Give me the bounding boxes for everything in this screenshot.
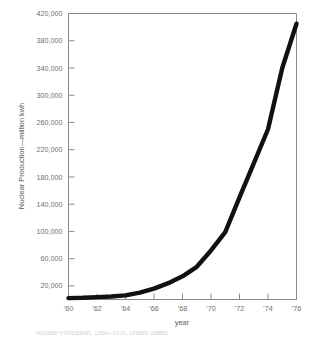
y-tick-label: 100,000 bbox=[37, 227, 63, 236]
x-tick-label: '74 bbox=[263, 304, 272, 313]
y-tick-label: 220,000 bbox=[37, 145, 63, 154]
bottom-caption-strip: Nuclear Production, 1960–1976, United St… bbox=[0, 331, 312, 338]
chart-canvas: 20,00060,000100,000140,000180,000220,000… bbox=[0, 0, 312, 338]
y-axis-title: Nuclear Production—million kwh bbox=[17, 103, 26, 209]
x-axis-title: year bbox=[175, 318, 190, 327]
y-tick-label: 420,000 bbox=[37, 9, 63, 18]
x-tick-label: '68 bbox=[178, 304, 187, 313]
nuclear-production-line-chart: 20,00060,000100,000140,000180,000220,000… bbox=[0, 0, 312, 338]
y-tick-label: 20,000 bbox=[41, 281, 63, 290]
x-tick-label: '64 bbox=[121, 304, 130, 313]
y-tick-label: 300,000 bbox=[37, 91, 63, 100]
x-tick-label: '60 bbox=[64, 304, 73, 313]
x-axis-tick-labels: '60'62'64'66'68'70'72'74'76 bbox=[64, 304, 301, 313]
x-tick-label: '66 bbox=[149, 304, 158, 313]
chart-caption: Nuclear Production, 1960–1976, United St… bbox=[36, 331, 168, 336]
y-tick-label: 380,000 bbox=[37, 36, 63, 45]
y-tick-label: 180,000 bbox=[37, 173, 63, 182]
x-tick-label: '72 bbox=[235, 304, 244, 313]
x-tick-label: '70 bbox=[206, 304, 215, 313]
y-tick-label: 140,000 bbox=[37, 200, 63, 209]
x-tick-label: '62 bbox=[92, 304, 101, 313]
y-tick-label: 60,000 bbox=[41, 254, 63, 263]
y-tick-label: 340,000 bbox=[37, 64, 63, 73]
y-tick-label: 260,000 bbox=[37, 118, 63, 127]
x-tick-label: '76 bbox=[292, 304, 301, 313]
